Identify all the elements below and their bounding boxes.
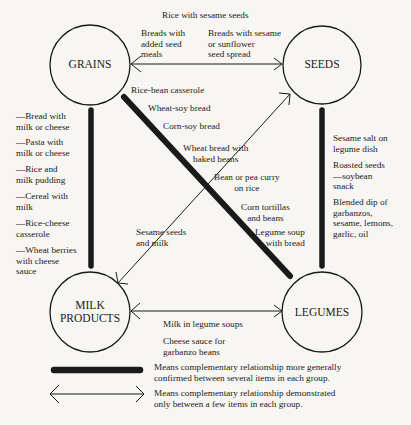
label-line: Sesame salt on: [333, 133, 388, 144]
label-line: —soybean: [333, 171, 385, 182]
grains-seeds-right-label: Breads with sesame or sunflower seed spr…: [208, 28, 281, 60]
grains-label: GRAINS: [60, 58, 120, 71]
milk-legumes-label-1: Milk in legume soups: [163, 319, 243, 330]
label-line: confirmed between several items in each …: [154, 373, 341, 384]
label-line: Legume soup: [255, 227, 305, 238]
grains-milk-label-1: —Bread with milk or cheese: [16, 111, 70, 132]
label-line: on rice: [214, 183, 280, 194]
grains-milk-label-3: —Rice and milk pudding: [16, 164, 65, 185]
seeds-label: SEEDS: [292, 58, 352, 71]
label-line: casserole: [16, 229, 70, 240]
seeds-legumes-label-1: Sesame salt on legume dish: [333, 133, 388, 154]
label-line: sauce: [16, 266, 76, 277]
protein-complementarity-diagram: GRAINS SEEDS MILK PRODUCTS LEGUMES Rice …: [0, 0, 411, 425]
label-line: milk or cheese: [16, 148, 70, 159]
label-line: Roasted seeds: [333, 160, 385, 171]
label-line: Wheat bread with: [183, 143, 248, 154]
label-line: seed spread: [208, 49, 281, 60]
legend-thin-arrow: [50, 385, 144, 403]
label-line: —Pasta with: [16, 137, 70, 148]
label-line: Corn tortillas: [241, 202, 290, 213]
grains-legumes-label-7: Legume soup with bread: [255, 227, 305, 248]
grains-seeds-top-label: Rice with sesame seeds: [162, 10, 249, 21]
grains-legumes-label-4: Wheat bread with baked beans: [183, 143, 248, 164]
label-line: added seed: [141, 39, 185, 50]
label-line: and beans: [241, 213, 290, 224]
label-line: garbanzo beans: [163, 347, 225, 358]
grains-milk-label-6: —Wheat berries with cheese sauce: [16, 245, 76, 277]
milk-legumes-label-2: Cheese sauce for garbanzo beans: [163, 336, 225, 357]
label-line: Means complementary relationship more ge…: [154, 362, 341, 373]
legend-thick-description: Means complementary relationship more ge…: [154, 362, 341, 383]
label-line: garlic, oil: [333, 229, 393, 240]
label-line: meals: [141, 49, 185, 60]
label-line: and milk: [136, 238, 186, 249]
label-line: milk: [16, 202, 68, 213]
milk-products-label-line1: MILK: [50, 299, 130, 312]
legend-thin-description: Means complementary relationship demonst…: [154, 388, 335, 409]
grains-milk-label-4: —Cereal with milk: [16, 191, 68, 212]
grains-milk-label-2: —Pasta with milk or cheese: [16, 137, 70, 158]
grains-legumes-label-3: Corn-soy bread: [163, 121, 220, 132]
label-line: —Cereal with: [16, 191, 68, 202]
label-line: or sunflower: [208, 39, 281, 50]
label-line: snack: [333, 181, 385, 192]
grains-legumes-label-5: Bean or pea curry on rice: [214, 172, 280, 193]
label-line: milk or cheese: [16, 122, 70, 133]
seeds-legumes-label-3: Blended dip of garbanzos, sesame, lemons…: [333, 197, 393, 239]
grains-legumes-label-1: Rice-bean casserole: [131, 85, 204, 96]
milk-products-label: MILK PRODUCTS: [50, 299, 130, 324]
label-line: Breads with sesame: [208, 28, 281, 39]
seeds-legumes-label-2: Roasted seeds —soybean snack: [333, 160, 385, 192]
label-line: Blended dip of: [333, 197, 393, 208]
milk-legumes-arrow: [131, 303, 282, 319]
label-line: sesame, lemons,: [333, 218, 393, 229]
label-line: —Rice and: [16, 164, 65, 175]
label-line: milk pudding: [16, 175, 65, 186]
label-line: —Bread with: [16, 111, 70, 122]
label-line: —Rice-cheese: [16, 218, 70, 229]
grains-milk-label-5: —Rice-cheese casserole: [16, 218, 70, 239]
label-line: Breads with: [141, 28, 185, 39]
label-line: legume dish: [333, 144, 388, 155]
label-line: only between a few items in each group.: [154, 399, 335, 410]
grains-legumes-label-6: Corn tortillas and beans: [241, 202, 290, 223]
label-line: garbanzos,: [333, 208, 393, 219]
label-line: —Wheat berries: [16, 245, 76, 256]
label-line: baked beans: [183, 154, 248, 165]
label-line: Bean or pea curry: [214, 172, 280, 183]
milk-seeds-label: Sesame seeds and milk: [136, 227, 186, 248]
legumes-label: LEGUMES: [287, 306, 357, 319]
label-line: with bread: [255, 238, 305, 249]
label-line: with cheese: [16, 256, 76, 267]
label-line: Sesame seeds: [136, 227, 186, 238]
milk-products-label-line2: PRODUCTS: [50, 312, 130, 325]
label-line: Means complementary relationship demonst…: [154, 388, 335, 399]
grains-legumes-label-2: Wheat-soy bread: [148, 103, 211, 114]
label-line: Cheese sauce for: [163, 336, 225, 347]
grains-seeds-left-label: Breads with added seed meals: [141, 28, 185, 60]
